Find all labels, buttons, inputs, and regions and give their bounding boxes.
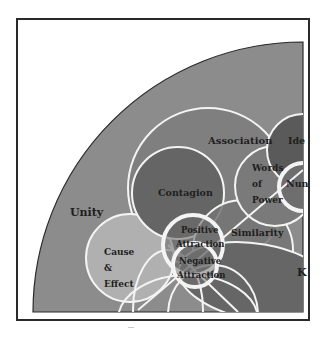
label-contagion: Contagion xyxy=(158,187,213,198)
label-unity: Unity xyxy=(70,206,104,219)
label-attraction-2: Attraction xyxy=(176,270,225,280)
diagram-frame: Unity Association Contagion Words of Pow… xyxy=(16,18,310,321)
label-numbers: Nun xyxy=(286,178,308,189)
magic-principles-diagram: Unity Association Contagion Words of Pow… xyxy=(18,20,308,319)
label-effect: Effect xyxy=(104,279,134,289)
label-power: Power xyxy=(252,195,283,205)
label-association: Association xyxy=(207,135,273,146)
label-negative: Negative xyxy=(179,256,222,266)
label-of: of xyxy=(252,179,263,189)
label-ideas: Ide xyxy=(288,135,305,146)
label-positive: Positive xyxy=(181,225,219,235)
scan-speck xyxy=(128,327,134,328)
label-ampersand: & xyxy=(104,263,112,273)
page: Unity Association Contagion Words of Pow… xyxy=(0,0,326,337)
label-words: Words xyxy=(251,163,283,173)
label-similarity: Similarity xyxy=(231,227,284,238)
label-cause: Cause xyxy=(104,247,135,257)
label-k: K xyxy=(297,266,307,279)
label-attraction-1: Attraction xyxy=(175,239,224,249)
